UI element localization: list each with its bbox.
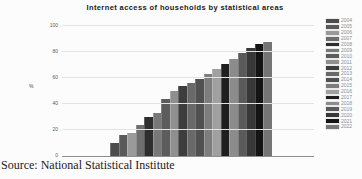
bar-2019 — [238, 53, 247, 156]
bar-2008 — [144, 117, 153, 156]
bar-2018 — [229, 59, 238, 157]
gridline-100 — [62, 25, 314, 26]
bar-2009 — [153, 113, 162, 156]
legend-swatch-2010 — [326, 54, 339, 58]
legend-swatch-2016 — [326, 90, 339, 94]
legend-swatch-2017 — [326, 96, 339, 100]
legend-swatch-2018 — [326, 102, 339, 106]
legend-swatch-2022 — [326, 125, 339, 129]
y-tick-label-20: 20 — [38, 127, 58, 132]
legend-swatch-2012 — [326, 66, 339, 70]
bar-2021 — [255, 44, 264, 156]
legend-swatch-2013 — [326, 72, 339, 76]
bar-series — [110, 26, 272, 156]
bar-2004 — [110, 143, 119, 156]
legend-swatch-2004 — [326, 19, 339, 23]
gridline-60 — [62, 77, 314, 78]
legend-label-2011: 2011 — [341, 60, 352, 65]
legend-swatch-2019 — [326, 107, 339, 111]
bar-2010 — [161, 99, 170, 156]
legend-swatch-2015 — [326, 84, 339, 88]
y-tick-label-80: 80 — [38, 49, 58, 54]
legend-swatch-2014 — [326, 78, 339, 82]
bar-2014 — [195, 79, 204, 156]
gridline-20 — [62, 129, 314, 130]
legend: 2004200520062007200820092010201120122013… — [326, 18, 362, 130]
legend-swatch-2020 — [326, 113, 339, 117]
legend-swatch-2007 — [326, 37, 339, 41]
bar-2013 — [187, 83, 196, 156]
chart-title: Internet access of households by statist… — [45, 3, 325, 12]
bar-2016 — [212, 69, 221, 156]
bar-2012 — [178, 86, 187, 156]
y-axis-label: % — [29, 83, 33, 89]
legend-swatch-2005 — [326, 25, 339, 29]
bar-2005 — [119, 135, 128, 156]
gridline-40 — [62, 103, 314, 104]
y-tick-label-40: 40 — [38, 101, 58, 106]
bar-2006 — [127, 133, 136, 156]
bar-2015 — [204, 74, 213, 156]
legend-label-2020: 2020 — [341, 113, 352, 118]
bar-2022 — [263, 42, 272, 156]
legend-swatch-2011 — [326, 60, 339, 64]
legend-label-2022: 2022 — [341, 124, 352, 129]
y-tick-label-100: 100 — [38, 23, 58, 28]
legend-swatch-2006 — [326, 31, 339, 35]
bar-2011 — [170, 91, 179, 156]
plot-area: % 020406080100 — [62, 26, 314, 157]
gridline-80 — [62, 51, 314, 52]
legend-swatch-2021 — [326, 119, 339, 123]
legend-swatch-2009 — [326, 49, 339, 53]
legend-item-2022: 2022 — [326, 124, 362, 130]
source-text: Source: National Statistical Institute — [1, 158, 175, 173]
chart-figure: Internet access of households by statist… — [0, 0, 362, 179]
y-tick-label-60: 60 — [38, 75, 58, 80]
legend-swatch-2008 — [326, 43, 339, 47]
